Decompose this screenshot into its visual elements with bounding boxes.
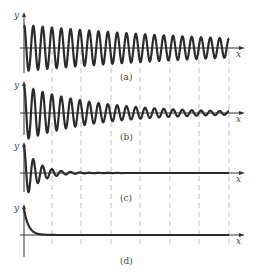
panel-c: y x (c) (13, 141, 245, 203)
panel-b: y x (b) (13, 80, 245, 142)
curve-d (24, 209, 229, 235)
caption-b: (b) (120, 132, 133, 142)
y-label-a: y (13, 10, 20, 20)
y-arrow-b-icon (22, 81, 26, 86)
y-arrow-c-icon (22, 142, 26, 147)
panel-a: y x (a) (13, 10, 245, 82)
y-label-d: y (13, 203, 20, 213)
caption-c: (c) (120, 193, 132, 203)
x-label-d: x (236, 236, 241, 246)
x-label-c: x (236, 174, 241, 184)
damped-oscillation-figure: y x (a) y x (b) y x (c) y x (d) (0, 0, 257, 272)
dashed-gridlines (52, 50, 229, 246)
curve-c (24, 147, 229, 192)
y-arrow-d-icon (22, 204, 26, 209)
panel-d: y x (d) (13, 203, 245, 266)
caption-a: (a) (120, 72, 132, 82)
y-label-b: y (13, 80, 20, 90)
x-label-b: x (236, 114, 241, 124)
curve-b (24, 86, 229, 138)
y-label-c: y (13, 141, 20, 151)
y-arrow-a-icon (22, 12, 26, 17)
x-label-a: x (236, 49, 241, 59)
caption-d: (d) (120, 256, 133, 266)
